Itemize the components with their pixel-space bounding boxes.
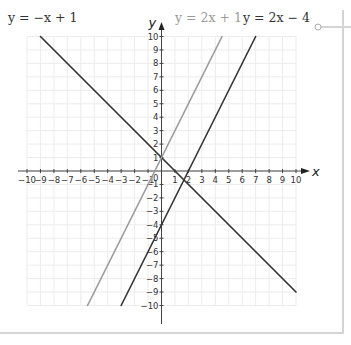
svg-text:5: 5 [226,175,231,185]
graph-figure: xy 1−11−12−22−23−33−34−44−45−55−56−66−67… [0,0,351,345]
svg-text:9: 9 [280,175,285,185]
y-axis-arrow-icon [159,22,165,30]
coordinate-plane: xy 1−11−12−22−23−33−34−44−45−55−56−66−67… [0,0,351,345]
svg-text:−5: −5 [88,175,101,185]
svg-text:5: 5 [153,99,158,109]
svg-text:−6: −6 [75,175,88,185]
svg-text:−4: −4 [146,220,159,230]
svg-text:−10: −10 [18,175,36,185]
line-1 [40,37,296,293]
svg-text:−7: −7 [61,175,74,185]
svg-text:−7: −7 [146,260,159,270]
svg-text:−9: −9 [34,175,47,185]
svg-text:1: 1 [172,175,177,185]
y-axis-label: y [148,15,157,30]
frame-border-bottom [0,332,344,334]
label-line1: y = −x + 1 [7,10,77,25]
svg-text:−4: −4 [101,175,114,185]
label-line3: y = 2x − 4 [242,10,310,25]
callout-connector [315,24,351,30]
svg-text:−3: −3 [115,175,128,185]
svg-text:3: 3 [199,175,204,185]
svg-text:7: 7 [253,175,258,185]
svg-text:−8: −8 [48,175,61,185]
label-line2: y = 2x + 1 [174,10,242,25]
svg-text:6: 6 [153,85,158,95]
svg-text:−2: −2 [146,193,159,203]
svg-text:−2: −2 [128,175,141,185]
svg-text:6: 6 [239,175,244,185]
svg-text:10: 10 [148,32,159,42]
svg-text:8: 8 [153,58,158,68]
svg-text:4: 4 [153,112,158,122]
axes: xy [18,15,320,324]
svg-text:−10: −10 [141,301,159,311]
svg-text:3: 3 [153,126,158,136]
frame-border-right [342,10,344,334]
svg-text:9: 9 [153,45,158,55]
svg-text:8: 8 [266,175,271,185]
svg-text:10: 10 [291,175,302,185]
equation-labels: y = −x + 1 y = 2x + 1 y = 2x − 4 [7,10,310,25]
svg-text:−3: −3 [146,206,159,216]
x-axis-label: x [311,164,320,179]
callout-circle-icon [315,24,321,30]
svg-text:−9: −9 [146,287,159,297]
x-axis-arrow-icon [301,168,310,174]
svg-text:7: 7 [153,72,158,82]
svg-text:4: 4 [213,175,218,185]
svg-text:2: 2 [153,139,158,149]
svg-text:−8: −8 [146,274,159,284]
